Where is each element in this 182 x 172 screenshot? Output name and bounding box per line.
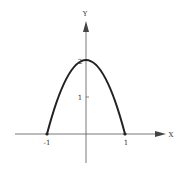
endpoint-left	[45, 132, 48, 135]
y-tick-label-2: 2	[78, 58, 82, 66]
y-tick-label-1: 1	[78, 94, 82, 102]
x-tick-label-neg1: -1	[44, 139, 51, 147]
x-axis-arrow-icon	[155, 131, 166, 137]
parabola-plot: Y X -1 1 2 1	[0, 0, 182, 172]
y-axis-label: Y	[82, 10, 88, 18]
y-axis-arrow-icon	[83, 21, 89, 32]
x-tick-label-1: 1	[124, 139, 128, 147]
endpoint-right	[123, 132, 126, 135]
x-axis-label: X	[169, 131, 174, 139]
